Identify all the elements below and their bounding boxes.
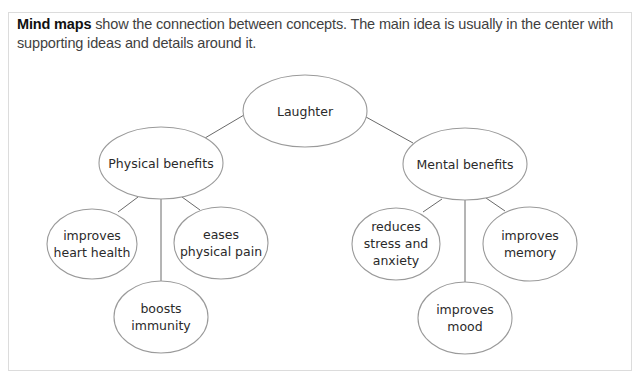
edge-laughter-mental bbox=[366, 117, 413, 143]
node-immunity-line2: immunity bbox=[131, 318, 191, 333]
edge-laughter-physical bbox=[205, 115, 244, 138]
edge-physical-pain bbox=[182, 197, 200, 210]
node-pain-line2: physical pain bbox=[180, 244, 262, 259]
node-eases-physical-pain: eases physical pain bbox=[174, 207, 268, 279]
node-mood-line1: improves bbox=[436, 302, 494, 317]
node-heart-line2: heart health bbox=[54, 245, 131, 260]
node-physical-benefits-label: Physical benefits bbox=[108, 156, 213, 171]
node-improves-memory: improves memory bbox=[483, 207, 577, 281]
node-memory-line2: memory bbox=[504, 245, 557, 260]
edge-mental-memory bbox=[486, 198, 505, 211]
node-improves-mood: improves mood bbox=[418, 282, 512, 354]
node-stress-line1: reduces bbox=[371, 219, 421, 234]
node-stress-line2: stress and bbox=[364, 236, 428, 251]
node-heart-line1: improves bbox=[63, 228, 121, 243]
node-reduces-stress-and-anxiety: reduces stress and anxiety bbox=[352, 208, 440, 280]
node-mental-benefits: Mental benefits bbox=[403, 128, 527, 200]
node-physical-benefits: Physical benefits bbox=[99, 127, 223, 199]
node-mood-line2: mood bbox=[447, 319, 482, 334]
node-memory-line1: improves bbox=[501, 228, 559, 243]
node-laughter-label: Laughter bbox=[277, 104, 334, 119]
node-mental-benefits-label: Mental benefits bbox=[417, 157, 514, 172]
edge-mental-stress bbox=[423, 199, 442, 212]
node-boosts-immunity: boosts immunity bbox=[114, 281, 208, 353]
node-improves-heart-health: improves heart health bbox=[47, 209, 137, 279]
node-laughter: Laughter bbox=[243, 75, 367, 147]
node-stress-line3: anxiety bbox=[373, 253, 420, 268]
node-immunity-line1: boosts bbox=[140, 301, 181, 316]
node-pain-line1: eases bbox=[203, 227, 239, 242]
edge-physical-heart bbox=[118, 197, 138, 212]
mind-map-diagram: Laughter Physical benefits Mental benefi… bbox=[0, 0, 641, 376]
